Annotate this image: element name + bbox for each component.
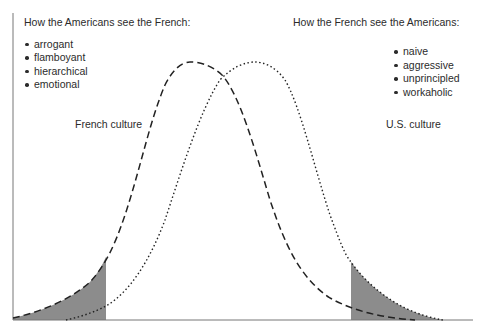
trait-item: emotional	[24, 78, 190, 92]
french-view-panel: How the French see the Americans:	[293, 16, 459, 30]
french-culture-label: French culture	[75, 118, 142, 130]
trait-item: arrogant	[24, 38, 190, 52]
americans-view-traits: arrogant flamboyant hierarchical emotion…	[24, 38, 190, 92]
trait-item: hierarchical	[24, 65, 190, 79]
french-left-tail-shading	[13, 257, 106, 320]
french-view-traits: naive aggressive unprincipled workaholic	[393, 45, 460, 99]
us-right-tail-shading	[351, 262, 443, 320]
americans-view-heading: How the Americans see the French:	[24, 16, 190, 30]
us-culture-label: U.S. culture	[386, 118, 441, 130]
trait-item: workaholic	[393, 86, 460, 100]
french-view-heading: How the French see the Americans:	[293, 16, 459, 30]
trait-item: naive	[393, 45, 460, 59]
trait-item: unprincipled	[393, 72, 460, 86]
trait-item: aggressive	[393, 59, 460, 73]
americans-view-panel: How the Americans see the French: arroga…	[24, 16, 190, 92]
trait-item: flamboyant	[24, 51, 190, 65]
us-culture-curve	[66, 62, 443, 320]
french-view-traits-block: naive aggressive unprincipled workaholic	[393, 45, 460, 99]
cultural-distribution-diagram: How the Americans see the French: arroga…	[0, 0, 479, 331]
